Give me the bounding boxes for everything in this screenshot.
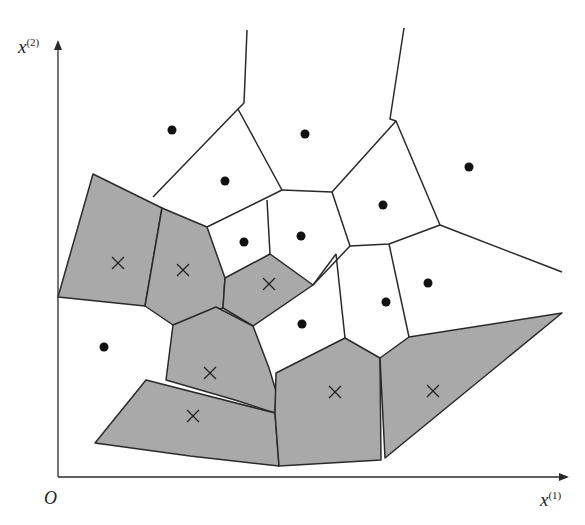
dot-marker — [379, 201, 388, 210]
voronoi-figure — [0, 0, 585, 525]
dot-marker — [221, 177, 230, 186]
cell-cross-7 — [380, 313, 562, 458]
dot-marker — [168, 126, 177, 135]
cell-cross-6 — [275, 338, 381, 466]
dot-marker — [424, 279, 433, 288]
origin-label: O — [44, 488, 57, 509]
dot-marker — [240, 238, 249, 247]
y-axis-label: x(2) — [18, 36, 39, 58]
dot-marker — [100, 343, 109, 352]
cell-cross-1 — [58, 174, 162, 306]
dot-marker — [382, 298, 391, 307]
shaded-regions — [58, 174, 562, 466]
x-axis-label: x(1) — [540, 489, 561, 511]
dot-marker — [465, 163, 474, 172]
dot-marker — [298, 320, 307, 329]
cell-cross-3 — [223, 254, 313, 326]
dot-marker — [297, 232, 306, 241]
dot-marker — [301, 130, 310, 139]
